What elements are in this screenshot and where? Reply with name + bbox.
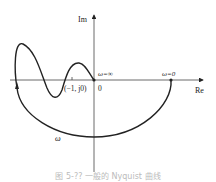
imag-axis-label: Im [78, 15, 88, 24]
real-axis-label: Re [195, 86, 204, 95]
nyquist-diagram: Im Re 0 (−1, j0) ω=∞ ω=0 ω [0, 0, 216, 182]
omega-infinity-point [92, 78, 95, 81]
omega-infinity-label: ω=∞ [98, 70, 113, 78]
critical-point-label: (−1, j0) [64, 84, 87, 93]
figure-caption: 图 5-?? 一般的 Nyquist 曲线 [0, 170, 216, 181]
curve-omega-label: ω [55, 134, 61, 143]
nyquist-curve [15, 44, 171, 137]
origin-label: 0 [98, 84, 102, 93]
omega-zero-point [169, 78, 172, 81]
omega-zero-label: ω=0 [162, 70, 176, 78]
